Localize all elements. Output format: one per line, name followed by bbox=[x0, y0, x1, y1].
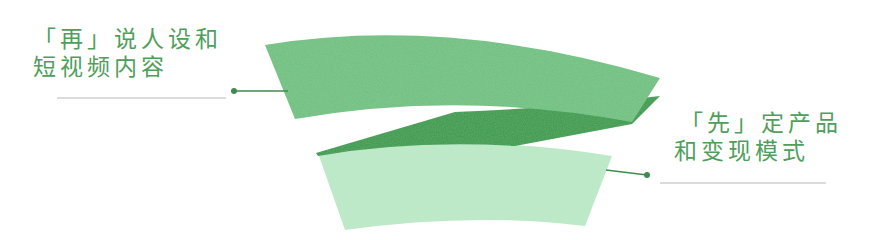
ribbon-diagram: 「再」说人设和 短视频内容 「先」定产品 和变现模式 bbox=[0, 0, 886, 240]
bottom-ribbon bbox=[318, 143, 612, 230]
label-left: 「再」说人设和 短视频内容 bbox=[33, 25, 222, 81]
label-right-line-2: 和变现模式 bbox=[674, 137, 842, 165]
label-right-line-1: 「先」定产品 bbox=[674, 109, 842, 137]
right-connector-dot bbox=[644, 172, 650, 178]
top-ribbon bbox=[265, 35, 660, 122]
left-connector-dot bbox=[231, 88, 237, 94]
right-connector-line bbox=[606, 170, 647, 175]
label-left-line-2: 短视频内容 bbox=[33, 53, 222, 81]
label-left-line-1: 「再」说人设和 bbox=[33, 25, 222, 53]
label-right: 「先」定产品 和变现模式 bbox=[674, 109, 842, 165]
